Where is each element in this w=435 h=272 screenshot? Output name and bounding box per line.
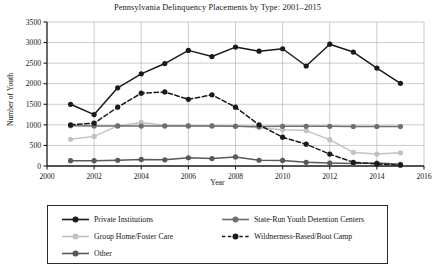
svg-text:2010: 2010 xyxy=(275,172,290,181)
series-1 xyxy=(68,123,403,129)
legend-item-other: Other xyxy=(62,248,222,259)
svg-text:2500: 2500 xyxy=(26,59,41,68)
legend-marker-icon xyxy=(62,248,89,259)
gridlines xyxy=(47,22,424,166)
svg-text:2008: 2008 xyxy=(228,172,243,181)
svg-text:1500: 1500 xyxy=(26,100,41,109)
legend-item-label: State-Run Youth Detention Centers xyxy=(254,216,364,224)
legend-item-label: Other xyxy=(94,250,112,258)
legend-item-wilderness-based-boot-camp: Wildnerness-Based/Boot Camp xyxy=(222,231,382,242)
svg-text:2006: 2006 xyxy=(181,172,196,181)
legend-marker-icon xyxy=(62,214,89,225)
svg-text:3500: 3500 xyxy=(26,18,41,27)
plot-area: 0500100015002000250030003500 20002002200… xyxy=(0,0,435,200)
svg-text:0: 0 xyxy=(37,162,41,171)
svg-text:2014: 2014 xyxy=(369,172,384,181)
legend-item-label: Group Home/Foster Care xyxy=(94,233,173,241)
svg-text:2012: 2012 xyxy=(322,172,337,181)
axes xyxy=(44,22,425,170)
svg-text:2000: 2000 xyxy=(39,172,54,181)
chart-figure: Pennsylvania Delinquency Placements by T… xyxy=(0,0,435,272)
legend-item-group-home-foster-care: Group Home/Foster Care xyxy=(62,231,222,242)
legend-marker-icon xyxy=(222,214,249,225)
svg-text:2016: 2016 xyxy=(416,172,431,181)
legend-item-state-run-youth-detention-centers: State-Run Youth Detention Centers xyxy=(222,214,382,225)
legend-item-private-institutions: Private Institutions xyxy=(62,214,222,225)
svg-text:1000: 1000 xyxy=(26,121,41,130)
legend-row: Other xyxy=(62,245,384,262)
x-tick-labels: 200020022004200620082010201220142016 xyxy=(39,172,431,181)
chart-legend: Private Institutions State-Run Youth Det… xyxy=(47,205,388,264)
legend-marker-icon xyxy=(222,231,249,242)
svg-text:2002: 2002 xyxy=(87,172,102,181)
svg-text:500: 500 xyxy=(30,141,42,150)
legend-item-label: Wildnerness-Based/Boot Camp xyxy=(254,233,352,241)
legend-item-label: Private Institutions xyxy=(94,216,153,224)
legend-row: Group Home/Foster Care Wildnerness-Based… xyxy=(62,228,384,245)
svg-text:3000: 3000 xyxy=(26,38,41,47)
svg-text:2000: 2000 xyxy=(26,79,41,88)
legend-row: Private Institutions State-Run Youth Det… xyxy=(62,211,384,228)
svg-text:2004: 2004 xyxy=(134,172,149,181)
y-tick-labels: 0500100015002000250030003500 xyxy=(26,18,41,171)
legend-marker-icon xyxy=(62,231,89,242)
